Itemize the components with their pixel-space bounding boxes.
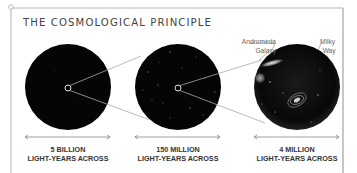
scale-value: 4 MILLION: [252, 145, 342, 154]
andromeda-label: Andromeda Galaxy: [236, 37, 276, 55]
milky-way-label-line2: Way: [320, 46, 336, 55]
scale-label-panel-3: 4 MILLION LIGHT-YEARS ACROSS: [252, 145, 342, 163]
scale-value: 5 BILLION: [23, 145, 113, 154]
andromeda-label-line2: Galaxy: [236, 46, 276, 55]
andromeda-label-line1: Andromeda: [236, 37, 276, 46]
diagram-title: THE COSMOLOGICAL PRINCIPLE: [23, 16, 212, 29]
scale-unit: LIGHT-YEARS ACROSS: [23, 154, 113, 163]
scale-label-panel-2: 150 MILLION LIGHT-YEARS ACROSS: [133, 145, 223, 163]
scale-unit: LIGHT-YEARS ACROSS: [133, 154, 223, 163]
milky-way-label: Milky Way: [320, 37, 336, 55]
scale-unit: LIGHT-YEARS ACROSS: [252, 154, 342, 163]
cluster-150-million-circle: [135, 44, 221, 130]
universe-5-billion-circle: [25, 44, 111, 130]
scale-label-panel-1: 5 BILLION LIGHT-YEARS ACROSS: [23, 145, 113, 163]
scale-arrows: [25, 135, 339, 139]
local-group-4-million-circle: [254, 44, 340, 130]
scale-value: 150 MILLION: [133, 145, 223, 154]
milky-way-label-line1: Milky: [320, 37, 336, 46]
